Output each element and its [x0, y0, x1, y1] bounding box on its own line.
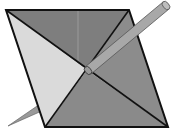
- pinwheel-diagram: [0, 0, 182, 139]
